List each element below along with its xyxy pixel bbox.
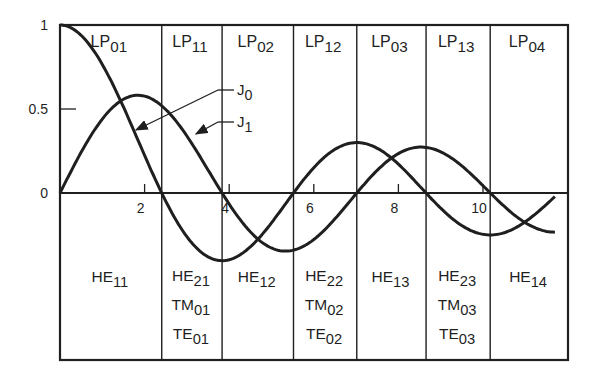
lp-mode-label: LP03 — [371, 33, 407, 55]
hybrid-mode-label: TM03 — [438, 296, 477, 318]
hybrid-mode-label: TE02 — [306, 325, 342, 347]
hybrid-mode-label: HE13 — [371, 268, 409, 290]
callout-label-j1: J1 — [237, 113, 253, 135]
bessel-mode-diagram: 24681000.51 LP01HE11LP11HE21TM01TE01LP02… — [0, 0, 595, 386]
hybrid-mode-label: HE11 — [91, 268, 128, 290]
x-tick-label: 10 — [471, 200, 487, 216]
hybrid-mode-label: HE14 — [509, 268, 547, 290]
lp-mode-label: LP04 — [509, 33, 545, 55]
hybrid-mode-label: HE23 — [438, 267, 476, 289]
hybrid-mode-label: TE01 — [173, 325, 209, 347]
hybrid-mode-label: HE22 — [305, 267, 343, 289]
x-tick-label: 8 — [391, 200, 399, 216]
curve-j0 — [60, 25, 555, 261]
hybrid-mode-label: TM01 — [172, 296, 211, 318]
y-tick-label: 0.5 — [29, 101, 49, 117]
lp-mode-label: LP12 — [305, 33, 341, 55]
hybrid-mode-label: HE12 — [238, 268, 276, 290]
x-tick-label: 4 — [221, 200, 229, 216]
callout-label-j0: J0 — [237, 81, 253, 103]
x-tick-label: 2 — [137, 200, 145, 216]
hybrid-mode-label: HE21 — [172, 267, 210, 289]
hybrid-mode-label: TE03 — [439, 325, 475, 347]
hybrid-mode-label: TM02 — [305, 296, 344, 318]
curve-callouts: J0J1 — [136, 81, 253, 135]
lp-mode-label: LP11 — [172, 33, 207, 55]
y-tick-label: 0 — [40, 185, 48, 201]
x-tick-label: 6 — [306, 200, 314, 216]
callout-arrow — [196, 122, 218, 134]
lp-mode-label: LP02 — [238, 33, 274, 55]
bessel-curves — [60, 25, 555, 261]
y-tick-label: 1 — [40, 17, 48, 33]
lp-mode-label: LP13 — [438, 33, 474, 55]
